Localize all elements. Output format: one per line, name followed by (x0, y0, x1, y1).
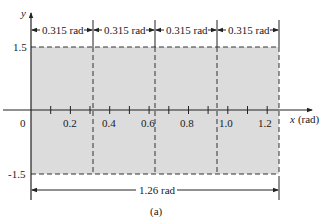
x-tick-0-4: 0.4 (102, 117, 116, 129)
segment-label-1: 0.315 rad (42, 24, 84, 36)
segment-label-4: 0.315 rad (228, 24, 270, 36)
origin-label: 0 (20, 117, 26, 129)
x-tick-0-2: 0.2 (63, 117, 77, 129)
figure-caption: (a) (150, 205, 163, 218)
x-tick-1-2: 1.2 (258, 117, 272, 129)
y-axis-label: y (20, 7, 26, 19)
x-tick-0-6: 0.6 (141, 117, 155, 129)
total-width-label: 1.26 rad (139, 184, 176, 196)
y-tick-top: 1.5 (13, 41, 27, 53)
segment-label-3: 0.315 rad (166, 24, 208, 36)
x-tick-1-0: 1.0 (219, 117, 233, 129)
x-tick-0-8: 0.8 (180, 117, 194, 129)
x-axis-label: x(rad) (289, 113, 320, 126)
y-tick-bottom: -1.5 (8, 168, 26, 180)
segment-label-2: 0.315 rad (104, 24, 146, 36)
diagram: y 1.5 -1.5 0 0.2 0.4 0.6 0.8 1.0 1.2 x(r… (0, 0, 323, 223)
